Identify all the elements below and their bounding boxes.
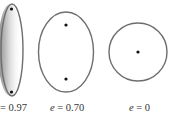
label-value: = 0.97 (0, 102, 27, 113)
ellipse-e070 (39, 12, 94, 92)
eccentricity-label-097: = 0.97 (0, 102, 27, 113)
focus-dot (64, 77, 67, 80)
focus-dot (136, 50, 139, 53)
label-value: = 0.70 (55, 102, 85, 113)
focus-dot (10, 7, 13, 10)
circle-e0 (109, 23, 167, 81)
ellipse-e097 (0, 4, 23, 96)
eccentricity-label-070: e = 0.70 (50, 102, 84, 113)
label-value: = 0 (134, 102, 150, 113)
eccentricity-label-0: e = 0 (129, 102, 150, 113)
focus-dot (64, 23, 67, 26)
focus-dot (10, 90, 13, 93)
